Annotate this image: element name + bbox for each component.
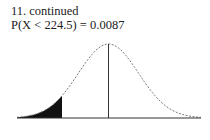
shaded-left-tail: [17, 96, 62, 118]
normal-curve-chart: [0, 0, 210, 140]
